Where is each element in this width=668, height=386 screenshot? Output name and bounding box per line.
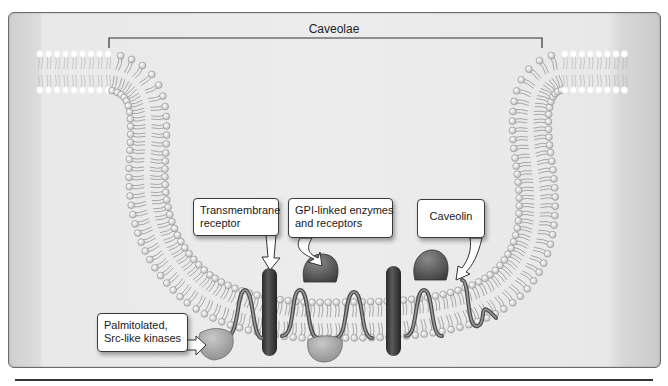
label-caveolin: Caveolin xyxy=(417,199,485,238)
figure-title: Caveolae xyxy=(0,22,668,36)
label-line: Palmitolated, xyxy=(104,319,181,332)
transmembrane-receptor xyxy=(386,266,401,356)
transmembrane-receptor xyxy=(262,268,277,356)
bottom-rule xyxy=(15,379,653,381)
label-line: Caveolin xyxy=(424,210,478,223)
arrow-transmembrane xyxy=(262,235,280,270)
gpi-linked-protein xyxy=(414,250,448,280)
label-palmitolated-kinases: Palmitolated, Src-like kinases xyxy=(97,313,188,352)
arrow-gpi xyxy=(298,238,322,266)
label-gpi-linked: GPI-linked enzymes and receptors xyxy=(288,198,393,238)
label-line: receptor xyxy=(200,217,272,230)
label-line: Src-like kinases xyxy=(104,332,181,345)
palmitolated-kinase xyxy=(308,336,343,362)
arrow-caveolin xyxy=(456,238,482,280)
lipid-bilayer xyxy=(37,51,628,342)
label-line: and receptors xyxy=(295,217,386,230)
label-transmembrane-receptor: Transmembrane receptor xyxy=(193,198,279,236)
caveolae-bracket xyxy=(109,38,542,48)
label-line: Transmembrane xyxy=(200,204,272,217)
label-line: GPI-linked enzymes xyxy=(295,204,386,217)
